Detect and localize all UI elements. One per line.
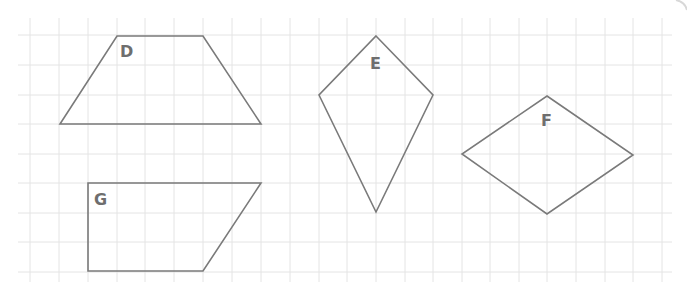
- shape-label: D: [120, 42, 133, 61]
- shape-label: F: [541, 111, 552, 130]
- trapezoid-outline: [60, 36, 261, 124]
- shape-label: E: [370, 54, 381, 73]
- shapes-diagram: DEFG: [0, 0, 687, 295]
- shape-label: G: [94, 190, 107, 209]
- shape-d: D: [60, 36, 261, 124]
- corner-decoration: [676, 0, 687, 10]
